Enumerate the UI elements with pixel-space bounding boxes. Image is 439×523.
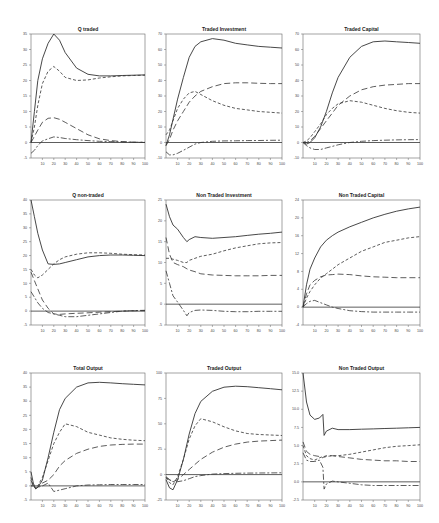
series-line-component-3 xyxy=(303,453,420,489)
x-tick-label: 90 xyxy=(406,504,410,508)
x-tick-label: 50 xyxy=(360,504,364,508)
x-tick-label: 80 xyxy=(395,504,399,508)
x-tick-label: 60 xyxy=(371,504,375,508)
x-tick-label: 30 xyxy=(336,504,340,508)
y-tick-label: -2.5 xyxy=(293,498,299,502)
series-line-component-2 xyxy=(303,442,420,462)
y-tick-label: 0.0 xyxy=(294,480,299,484)
series-line-total xyxy=(303,373,420,435)
y-tick-label: 12.5 xyxy=(292,389,299,393)
plot-frame xyxy=(303,373,420,500)
x-tick-label: 100 xyxy=(417,504,423,508)
y-tick-label: 10.0 xyxy=(292,407,299,411)
x-tick-label: 20 xyxy=(324,504,328,508)
x-tick-label: 40 xyxy=(348,504,352,508)
y-tick-label: 15.0 xyxy=(292,371,299,375)
y-tick-label: 7.5 xyxy=(294,426,299,430)
y-tick-label: 2.5 xyxy=(294,462,299,466)
y-tick-label: 5.0 xyxy=(294,444,299,448)
series-line-component-1 xyxy=(303,445,420,460)
x-tick-label: 70 xyxy=(383,504,387,508)
x-tick-label: 10 xyxy=(313,504,317,508)
chart-non-traded-output: Non Traded Output15.012.510.07.55.02.50.… xyxy=(0,0,439,523)
panel-title: Non Traded Output xyxy=(339,365,385,371)
